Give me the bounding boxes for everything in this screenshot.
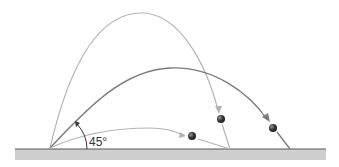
arrowhead-high — [215, 106, 222, 114]
ball-low — [188, 132, 196, 140]
trajectory-high-angle — [50, 13, 218, 148]
ball-45 — [269, 124, 277, 132]
ball-high — [217, 115, 225, 123]
arrowhead-low — [179, 132, 186, 138]
bounce-45 — [277, 132, 290, 149]
trajectory-low-angle — [50, 128, 183, 148]
ground — [15, 149, 326, 160]
projectile-diagram: 45° — [0, 0, 339, 167]
bounce-high — [222, 124, 230, 149]
bounce-low — [198, 139, 230, 149]
angle-label: 45° — [89, 135, 107, 149]
